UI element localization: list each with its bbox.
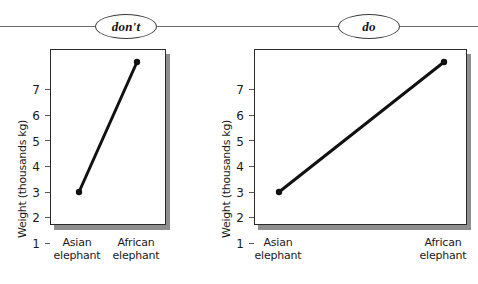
x-category-asian-do: Asian elephant xyxy=(249,236,307,262)
plot-area-do xyxy=(254,49,467,225)
x-category-african-do-line2: elephant xyxy=(414,249,472,262)
y-tick-label-3-do: 3 xyxy=(232,187,244,199)
y-tick-label-7: 7 xyxy=(28,84,40,96)
y-tick-label-5: 5 xyxy=(28,136,40,148)
badge-do: do xyxy=(338,14,400,39)
x-category-african-dont-line2: elephant xyxy=(107,249,165,262)
y-tick-label-6: 6 xyxy=(28,110,40,122)
x-category-asian-dont: Asian elephant xyxy=(48,236,106,262)
x-category-asian-do-line1: Asian xyxy=(249,236,307,249)
data-point-asian-dont xyxy=(76,189,82,195)
series-line-dont xyxy=(79,62,137,192)
series-line-do xyxy=(279,62,444,192)
x-category-asian-do-line2: elephant xyxy=(249,249,307,262)
y-tick-label-2-do: 2 xyxy=(232,212,244,224)
y-tick-label-4-do: 4 xyxy=(232,161,244,173)
y-tick-label-1-do: 1 xyxy=(232,238,244,250)
banner: don't do xyxy=(0,0,478,40)
x-category-african-do: African elephant xyxy=(414,236,472,262)
x-category-asian-dont-line1: Asian xyxy=(48,236,106,249)
badge-dont: don't xyxy=(95,14,157,39)
y-tick-label-7-do: 7 xyxy=(232,84,244,96)
y-tick-label-4: 4 xyxy=(28,161,40,173)
data-point-african-dont xyxy=(134,59,140,65)
horizontal-rule xyxy=(0,26,478,27)
y-tick-label-6-do: 6 xyxy=(232,110,244,122)
data-point-asian-do xyxy=(276,189,282,195)
y-tick-label-2: 2 xyxy=(28,212,40,224)
chart-panel-do: Weight (thousands kg) 7 6 5 4 3 2 1 Asia… xyxy=(212,40,478,284)
x-category-african-do-line1: African xyxy=(414,236,472,249)
y-tick-label-5-do: 5 xyxy=(232,136,244,148)
x-category-african-dont-line1: African xyxy=(107,236,165,249)
badge-dont-label: don't xyxy=(112,20,140,34)
y-tick-label-1: 1 xyxy=(28,238,40,250)
chart-panel-dont: Weight (thousands kg) 7 6 5 4 3 2 1 Asia… xyxy=(0,40,212,284)
badge-do-label: do xyxy=(362,20,375,34)
series-svg-dont xyxy=(51,50,167,226)
x-category-asian-dont-line2: elephant xyxy=(48,249,106,262)
plot-area-dont xyxy=(50,49,166,225)
x-category-african-dont: African elephant xyxy=(107,236,165,262)
data-point-african-do xyxy=(441,59,447,65)
y-tick-label-3: 3 xyxy=(28,187,40,199)
series-svg-do xyxy=(255,50,468,226)
